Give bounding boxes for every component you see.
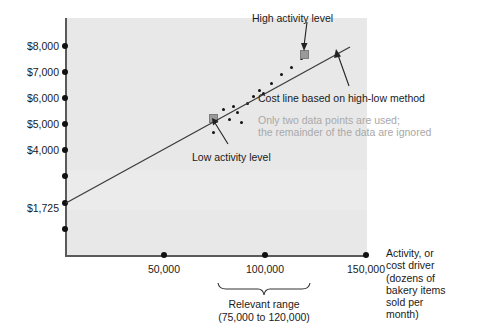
x-axis-title-line-6: month) xyxy=(386,308,478,320)
annotation-cost-line-label: Cost line based on high-low method xyxy=(258,92,425,105)
y-tick-dot-7000 xyxy=(62,69,68,75)
cost-behavior-chart: $8,000 $7,000 $6,000 $5,000 $4,000 $1,72… xyxy=(0,0,478,334)
y-tick-label-7000: $7,000 xyxy=(27,67,59,78)
annotation-note-line-1: Only two data points are used; xyxy=(258,114,400,127)
x-tick-label-50000: 50,000 xyxy=(148,264,180,275)
y-tick-dot-5000 xyxy=(62,121,68,127)
y-tick-label-8000: $8,000 xyxy=(27,41,59,52)
y-tick-label-5000: $5,000 xyxy=(27,119,59,130)
annotation-high-activity-level: High activity level xyxy=(252,12,333,25)
plot-background-band xyxy=(66,170,367,210)
x-axis-line xyxy=(65,255,367,257)
y-axis-line xyxy=(65,18,67,256)
y-tick-label-4000: $4,000 xyxy=(27,145,59,156)
x-tick-dot-50000 xyxy=(161,252,167,258)
low-activity-point xyxy=(209,114,218,123)
high-activity-point xyxy=(300,50,309,59)
y-tick-label-1725: $1,725 xyxy=(27,203,59,214)
y-tick-dot-3000 xyxy=(62,173,68,179)
x-axis-title-line-5: sold per xyxy=(386,296,478,308)
relevant-range-bracket xyxy=(218,283,310,295)
x-tick-dot-150000 xyxy=(363,252,369,258)
x-axis-title-line-2: cost driver xyxy=(386,259,478,271)
relevant-range-title: Relevant range xyxy=(228,298,299,311)
x-axis-title-line-4: bakery items xyxy=(386,284,478,296)
relevant-range-subtitle: (75,000 to 120,000) xyxy=(218,311,310,324)
y-tick-dot-8000 xyxy=(62,43,68,49)
annotation-low-activity-level: Low activity level xyxy=(192,151,271,164)
x-tick-label-100000: 100,000 xyxy=(246,264,284,275)
x-tick-dot-100000 xyxy=(262,252,268,258)
annotation-note-line-2: the remainder of the data are ignored xyxy=(258,126,431,139)
y-tick-dot-1000 xyxy=(62,226,68,232)
y-tick-dot-6000 xyxy=(62,95,68,101)
x-axis-title: Activity, or cost driver (dozens of bake… xyxy=(386,247,478,321)
y-tick-label-6000: $6,000 xyxy=(27,93,59,104)
x-axis-title-line-1: Activity, or xyxy=(386,247,478,259)
y-tick-dot-4000 xyxy=(62,147,68,153)
y-tick-dot-1725 xyxy=(62,200,68,206)
x-axis-title-line-3: (dozens of xyxy=(386,272,478,284)
x-tick-label-150000: 150,000 xyxy=(347,264,385,275)
